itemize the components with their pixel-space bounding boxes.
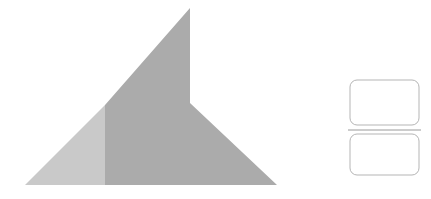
illustration-canvas: Abstract geometric shapes illustration bbox=[0, 0, 431, 199]
upper-rounded-rectangle[interactable] bbox=[350, 80, 419, 125]
geometric-figure bbox=[0, 0, 431, 199]
lower-rounded-rectangle[interactable] bbox=[350, 134, 419, 175]
